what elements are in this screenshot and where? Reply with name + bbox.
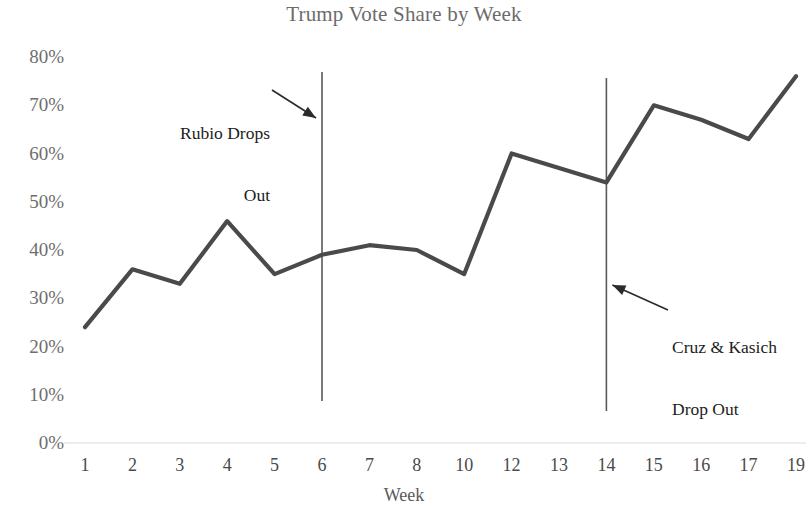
x-tick-label-3: 3 [175,455,184,476]
x-tick-label-12: 12 [503,455,521,476]
chart-container: Trump Vote Share by Week 0%10%20%30%40%5… [0,0,808,510]
arrowhead-rubio-icon [302,107,316,118]
x-tick-label-6: 6 [318,455,327,476]
x-tick-label-2: 2 [128,455,137,476]
annotation-cruz-line2: Drop Out [672,399,808,420]
annotation-cruz-kasich-drop-out: Cruz & Kasich Drop Out [672,296,808,461]
annotation-rubio-line2: Out [146,185,270,206]
arrowhead-cruz-kasich-icon [612,285,626,295]
annotation-rubio-drops-out: Rubio Drops Out [146,82,270,247]
x-tick-label-7: 7 [365,455,374,476]
x-tick-label-5: 5 [270,455,279,476]
x-tick-label-13: 13 [550,455,568,476]
x-tick-label-15: 15 [645,455,663,476]
annotation-cruz-line1: Cruz & Kasich [672,337,808,358]
annotation-rubio-line1: Rubio Drops [146,123,270,144]
x-axis-title: Week [0,485,808,506]
x-tick-label-1: 1 [81,455,90,476]
x-tick-label-10: 10 [455,455,473,476]
event-marker-lines [322,72,606,411]
x-tick-label-4: 4 [223,455,232,476]
x-tick-label-8: 8 [412,455,421,476]
x-tick-label-14: 14 [597,455,615,476]
annotation-arrows [272,90,668,310]
